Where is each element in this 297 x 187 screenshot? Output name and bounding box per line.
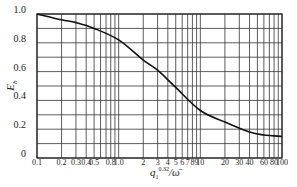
x-tick-label: 30	[235, 158, 243, 167]
x-axis-title-sub: 1	[156, 174, 159, 180]
x-tick-label: 40	[246, 158, 254, 167]
x-tick-label: 60	[260, 158, 268, 167]
x-tick-label: 0.2	[57, 158, 67, 167]
y-axis-title-sub: b	[11, 80, 19, 84]
series-line-eb	[37, 14, 282, 136]
x-axis-title: q10.32/ω̄	[150, 166, 180, 180]
x-tick-label: 7	[186, 158, 190, 167]
x-tick-label: 20	[221, 158, 229, 167]
y-tick-label: 1.0	[0, 5, 26, 15]
x-tick-label: 10	[196, 158, 204, 167]
x-tick-label: 0.3	[71, 158, 81, 167]
y-tick-label: 0.8	[0, 34, 26, 44]
x-tick-label: 2	[141, 158, 145, 167]
x-tick-label: 0.1	[32, 158, 42, 167]
x-tick-label: 100	[276, 158, 288, 167]
x-tick-label: 1.0	[114, 158, 124, 167]
y-tick-label: 0	[0, 149, 26, 159]
x-tick-label: 0.5	[89, 158, 99, 167]
y-tick-label: 0.4	[0, 91, 26, 101]
y-axis-title: Eb	[4, 80, 19, 90]
x-axis-title-rest: /ω̄	[169, 166, 180, 178]
grid-lines	[37, 14, 282, 158]
x-axis-title-sup: 0.32	[159, 166, 170, 172]
y-tick-label: 0.2	[0, 120, 26, 130]
y-tick-label: 0.6	[0, 63, 26, 73]
y-axis-title-base: E	[4, 84, 16, 91]
x-tick-label: 6	[180, 158, 184, 167]
